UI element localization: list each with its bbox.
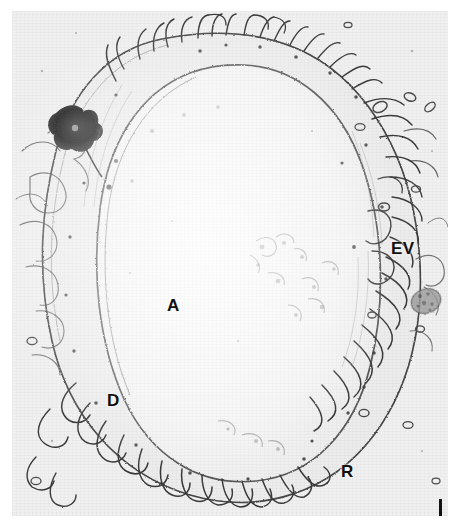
label-r: R (341, 463, 354, 480)
label-ev: EV (391, 240, 415, 257)
micrograph-figure: A D EV R (0, 0, 468, 531)
label-a: A (167, 297, 180, 314)
label-d: D (107, 392, 120, 409)
micrograph-plate: A D EV R (12, 11, 448, 516)
scale-bar (439, 499, 442, 516)
micrograph-drawing (12, 11, 448, 516)
